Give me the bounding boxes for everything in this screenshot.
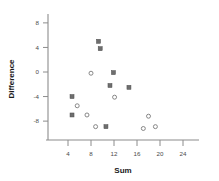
data-point-circle: [147, 114, 151, 118]
data-point-circle: [141, 126, 145, 130]
data-point-circle: [153, 125, 157, 129]
x-tick-label: 12: [111, 150, 118, 157]
data-point-square: [108, 84, 112, 88]
y-tick-label: 0: [36, 68, 40, 75]
x-tick-label: 24: [180, 150, 187, 157]
y-tick-label: -4: [33, 93, 39, 100]
scatter-chart: 840-4-8 4812162024 Sum Difference: [0, 0, 219, 181]
x-tick-label: 16: [134, 150, 141, 157]
data-point-square: [70, 113, 74, 117]
y-tick-group: 840-4-8: [33, 19, 48, 124]
plot-svg: 840-4-8 4812162024 Sum Difference: [0, 0, 219, 181]
x-tick-group: 4812162024: [66, 140, 187, 157]
y-tick-label: -8: [33, 117, 39, 124]
y-axis-title: Difference: [7, 59, 16, 99]
x-axis-title: Sum: [114, 166, 131, 175]
data-point-square: [96, 39, 100, 43]
data-point-square: [127, 85, 131, 89]
data-point-square: [104, 125, 108, 129]
data-point-circle: [113, 95, 117, 99]
axis-lines: [46, 14, 199, 140]
data-point-circle: [94, 125, 98, 129]
x-tick-label: 20: [157, 150, 164, 157]
x-tick-label: 4: [66, 150, 70, 157]
data-point-square: [70, 95, 74, 99]
data-point-circle: [89, 71, 93, 75]
data-point-circle: [75, 104, 79, 108]
y-tick-label: 4: [36, 44, 40, 51]
data-point-square: [98, 47, 102, 51]
y-tick-label: 8: [36, 19, 40, 26]
data-point-circle: [85, 113, 89, 117]
x-tick-label: 8: [89, 150, 93, 157]
data-point-group: [70, 39, 157, 130]
data-point-square: [111, 71, 115, 75]
